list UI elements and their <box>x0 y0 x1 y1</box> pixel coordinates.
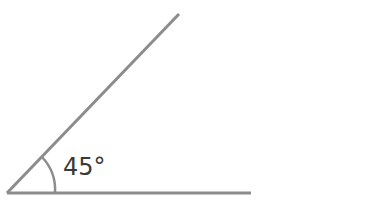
angle-diagram: 45° <box>0 0 388 201</box>
angle-label: 45° <box>63 153 106 181</box>
angle-arc <box>42 157 55 193</box>
